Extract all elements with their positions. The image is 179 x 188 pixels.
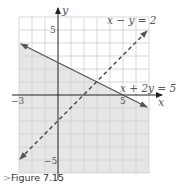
- graph-figure: x y −3 5 5 −5 x − y = 2 x + 2y = 5: [0, 0, 179, 188]
- caption-marker: >: [3, 172, 11, 183]
- tick-x-neg3: −3: [11, 96, 25, 106]
- caption-text: Figure 7.15: [11, 172, 64, 183]
- figure-caption: >Figure 7.15: [3, 172, 64, 183]
- y-axis-label: y: [61, 4, 69, 17]
- label-x-plus-2y-eq-5: x + 2y = 5: [120, 82, 176, 94]
- tick-x-5: 5: [120, 96, 126, 106]
- tick-y-5: 5: [50, 25, 56, 35]
- tick-y-neg5: −5: [44, 156, 58, 166]
- label-x-minus-y-eq-2: x − y = 2: [107, 14, 157, 26]
- x-axis-label: x: [158, 96, 165, 109]
